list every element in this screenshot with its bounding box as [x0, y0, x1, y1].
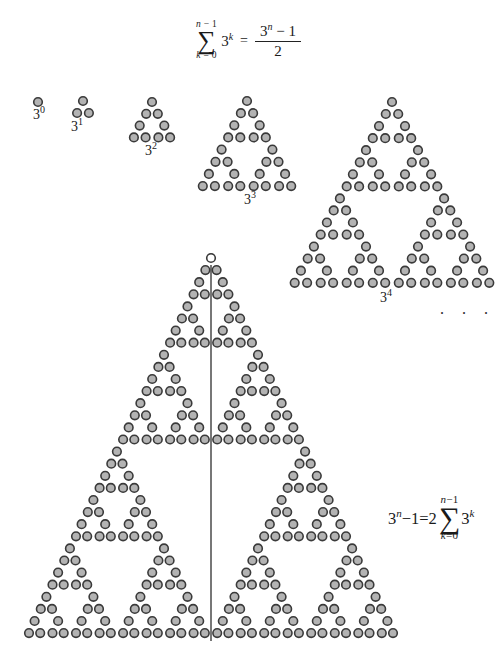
dot — [283, 508, 292, 517]
dot — [316, 279, 325, 288]
dot — [236, 435, 245, 444]
continuation-ellipsis: . . . — [440, 300, 495, 318]
dot — [395, 182, 404, 191]
dot — [407, 279, 416, 288]
dot — [225, 314, 234, 323]
dot — [368, 254, 377, 263]
dot — [479, 266, 488, 275]
dot — [260, 580, 269, 589]
dot — [381, 279, 390, 288]
dot — [248, 435, 257, 444]
dot — [177, 580, 186, 589]
dot — [101, 617, 110, 626]
dot — [301, 447, 310, 456]
dot-triangles-canvas — [0, 0, 503, 670]
dot — [421, 182, 430, 191]
dot — [124, 617, 133, 626]
dot — [124, 423, 133, 432]
dot — [89, 496, 98, 505]
dot — [485, 279, 494, 288]
dot — [271, 387, 280, 396]
dot — [107, 459, 116, 468]
dot — [289, 423, 298, 432]
dot — [427, 170, 436, 179]
dot — [84, 605, 93, 614]
dot — [131, 508, 140, 517]
dot — [355, 230, 364, 239]
dot — [119, 484, 128, 493]
dot — [101, 472, 110, 481]
dot — [195, 617, 204, 626]
dot — [342, 279, 351, 288]
dot — [101, 520, 110, 529]
dot — [36, 629, 45, 638]
dot — [459, 230, 468, 239]
dot — [407, 182, 416, 191]
dot — [283, 605, 292, 614]
dot — [130, 629, 139, 638]
dot — [230, 302, 239, 311]
dot — [259, 556, 268, 565]
dot — [166, 338, 175, 347]
dot — [230, 593, 239, 602]
summation-symbol: n−1 ∑ k=0 — [439, 494, 460, 542]
dot — [243, 97, 252, 106]
dot — [283, 629, 292, 638]
dot — [323, 218, 332, 227]
dot — [365, 580, 374, 589]
open-apex-dot — [207, 254, 216, 263]
dot — [142, 629, 151, 638]
dot — [295, 532, 304, 541]
dot — [287, 182, 296, 191]
dot — [362, 242, 371, 251]
dot — [213, 435, 222, 444]
dot — [219, 278, 228, 287]
dot — [160, 544, 169, 553]
dot — [295, 435, 304, 444]
dot — [342, 230, 351, 239]
dot — [25, 629, 34, 638]
dot — [375, 266, 384, 275]
dot — [224, 133, 233, 142]
dot — [189, 314, 198, 323]
dot — [142, 110, 151, 119]
dot — [224, 182, 233, 191]
dot — [166, 133, 175, 142]
dot — [131, 411, 140, 420]
dot — [242, 423, 251, 432]
dot — [77, 617, 86, 626]
dot — [255, 170, 264, 179]
dot — [365, 629, 374, 638]
dot — [212, 266, 221, 275]
sum-lower-limit: k = 0 — [196, 51, 217, 61]
dot — [381, 182, 390, 191]
dot — [30, 617, 39, 626]
dot — [336, 617, 345, 626]
dot — [83, 532, 92, 541]
dot — [85, 109, 94, 118]
dot — [303, 279, 312, 288]
dot — [195, 326, 204, 335]
label-power-1: 31 — [71, 117, 83, 134]
dot — [199, 182, 208, 191]
dot — [371, 593, 380, 602]
dot — [219, 617, 228, 626]
dot — [242, 326, 251, 335]
dot — [189, 338, 198, 347]
dot — [307, 484, 316, 493]
dot — [383, 617, 392, 626]
dot — [189, 290, 198, 299]
dot — [189, 411, 198, 420]
sum-term: 3k — [461, 507, 474, 529]
dot — [189, 435, 198, 444]
dot — [421, 230, 430, 239]
dot — [113, 447, 122, 456]
dot — [71, 556, 80, 565]
dot — [248, 338, 257, 347]
dot — [225, 605, 234, 614]
dot — [124, 520, 133, 529]
dot — [355, 182, 364, 191]
dot — [48, 605, 57, 614]
dot — [289, 617, 298, 626]
dot — [148, 520, 157, 529]
